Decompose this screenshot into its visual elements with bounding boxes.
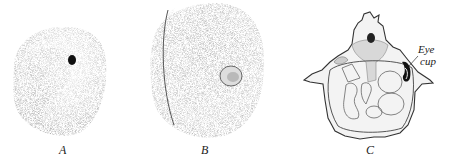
cross-section-c-diagram: [290, 0, 451, 162]
figure-a: A: [0, 0, 150, 162]
eye-cup-label-line1: Eye: [418, 43, 436, 55]
eye-spot-a: [68, 55, 76, 65]
eye-cup-label-line2: cup: [420, 55, 436, 67]
figure-b: B: [142, 0, 292, 162]
figure-c: Eye cup C: [290, 0, 451, 162]
notochord: [367, 33, 375, 43]
embryo-b-illustration: [142, 0, 292, 162]
eye-cup-leader-line: [409, 56, 418, 66]
embryo-a-illustration: [0, 0, 150, 162]
figure-label-a: A: [59, 143, 66, 158]
figure-label-b: B: [201, 143, 208, 158]
figure-label-c: C: [366, 143, 374, 158]
eye-cup-annotation: Eye cup: [418, 43, 436, 67]
